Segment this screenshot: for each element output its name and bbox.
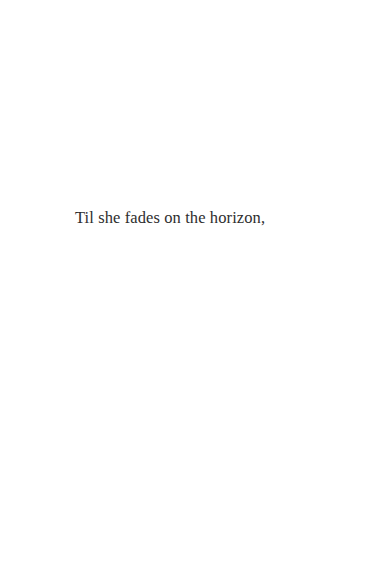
book-page: Til she fades on the horizon, <box>0 0 368 562</box>
verse-line: Til she fades on the horizon, <box>75 208 265 228</box>
